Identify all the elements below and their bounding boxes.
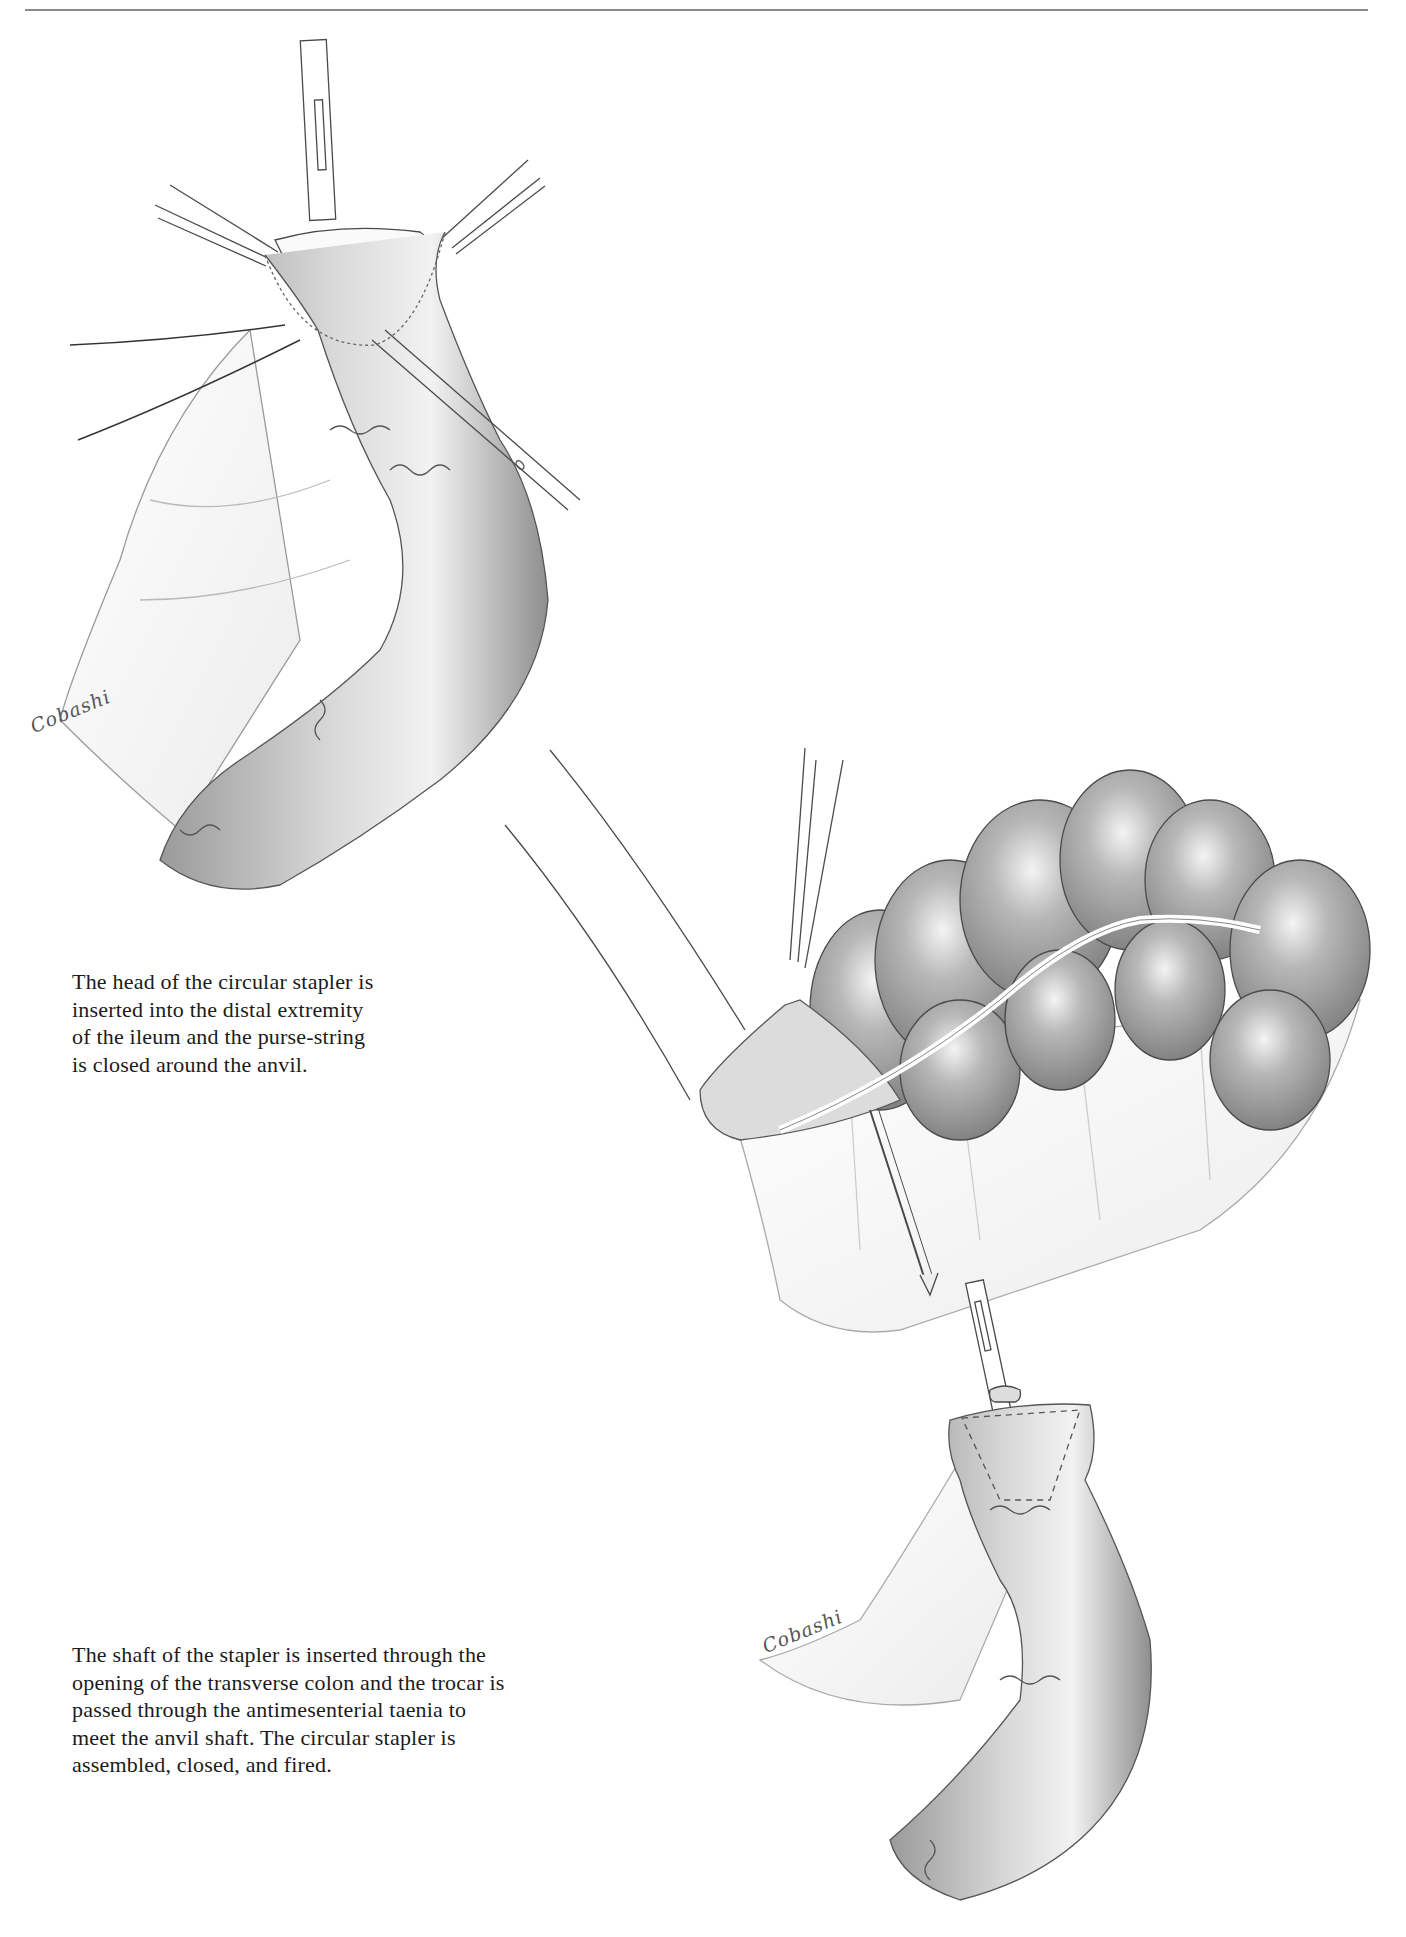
caption-line: The head of the circular stapler is xyxy=(72,968,373,996)
caption-line: is closed around the anvil. xyxy=(72,1051,373,1079)
caption-line: inserted into the distal extremity xyxy=(72,996,373,1024)
figure-transverse-colon xyxy=(505,748,1370,1332)
caption-line: assembled, closed, and fired. xyxy=(72,1751,505,1779)
caption-line: The shaft of the stapler is inserted thr… xyxy=(72,1641,505,1669)
caption-line: of the ileum and the purse-string xyxy=(72,1023,373,1051)
figure-caption-stapler-firing: The shaft of the stapler is inserted thr… xyxy=(72,1641,505,1779)
caption-line: passed through the antimesenterial taeni… xyxy=(72,1696,505,1724)
caption-line: meet the anvil shaft. The circular stapl… xyxy=(72,1724,505,1752)
figure-anastomosis xyxy=(760,1280,1151,1900)
figure-ileum-anvil xyxy=(60,39,580,889)
figure-caption-anvil-insertion: The head of the circular stapler is inse… xyxy=(72,968,373,1078)
caption-line: opening of the transverse colon and the … xyxy=(72,1669,505,1697)
